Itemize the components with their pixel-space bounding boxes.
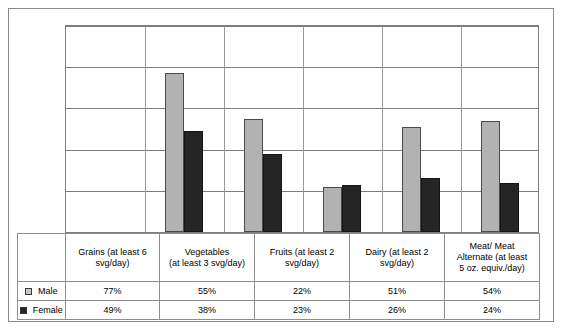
bar-group-meat bbox=[461, 26, 540, 232]
value-male-fruits: 22% bbox=[255, 282, 350, 301]
bar-group-dairy bbox=[382, 26, 461, 232]
category-line: Vegetables bbox=[185, 247, 230, 257]
light-square-icon bbox=[25, 288, 32, 295]
value-female-fruits: 23% bbox=[255, 301, 350, 320]
legend-label-male: Male bbox=[38, 286, 58, 296]
category-line: (at least 3 svg/day) bbox=[169, 258, 245, 268]
value-female-meat: 24% bbox=[445, 301, 540, 320]
bar-male-vegetables[interactable] bbox=[244, 119, 263, 232]
value-female-grains: 49% bbox=[66, 301, 160, 320]
bar-male-dairy[interactable] bbox=[402, 127, 421, 232]
category-line: svg/day) bbox=[380, 258, 414, 268]
category-line: Meat/ Meat bbox=[469, 241, 514, 251]
value-male-dairy: 51% bbox=[350, 282, 445, 301]
category-line: Fruits (at least 2 bbox=[270, 247, 335, 257]
bar-female-grains[interactable] bbox=[184, 131, 203, 232]
category-line: Alternate (at least bbox=[457, 252, 528, 262]
table-header-row: Grains (at least 6 svg/day) Vegetables (… bbox=[18, 234, 540, 282]
category-header-grains: Grains (at least 6 svg/day) bbox=[66, 234, 160, 282]
category-line: svg/day) bbox=[95, 258, 129, 268]
bar-female-meat[interactable] bbox=[500, 183, 519, 232]
category-line: svg/day) bbox=[285, 258, 319, 268]
legend-item-female[interactable]: Female bbox=[18, 301, 66, 320]
category-header-fruits: Fruits (at least 2 svg/day) bbox=[255, 234, 350, 282]
bar-group-grains bbox=[145, 26, 224, 232]
legend-spacer-cell bbox=[18, 234, 66, 282]
bar-female-vegetables[interactable] bbox=[263, 154, 282, 232]
dark-square-icon bbox=[20, 307, 27, 314]
value-male-grains: 77% bbox=[66, 282, 160, 301]
bar-male-fruits[interactable] bbox=[323, 187, 342, 232]
bar-female-fruits[interactable] bbox=[342, 185, 361, 232]
legend-label-female: Female bbox=[33, 305, 63, 315]
value-male-vegetables: 55% bbox=[160, 282, 255, 301]
bar-group-vegetables bbox=[224, 26, 303, 232]
category-line: Dairy (at least 2 bbox=[365, 247, 428, 257]
value-male-meat: 54% bbox=[445, 282, 540, 301]
value-female-dairy: 26% bbox=[350, 301, 445, 320]
table-row: Male 77% 55% 22% 51% 54% bbox=[18, 282, 540, 301]
category-line: Grains (at least 6 bbox=[78, 247, 147, 257]
data-table: Grains (at least 6 svg/day) Vegetables (… bbox=[17, 233, 540, 320]
plot-area bbox=[65, 25, 539, 233]
bar-male-grains[interactable] bbox=[165, 73, 184, 232]
category-header-meat: Meat/ Meat Alternate (at least 5 oz. equ… bbox=[445, 234, 540, 282]
value-female-vegetables: 38% bbox=[160, 301, 255, 320]
legend-item-male[interactable]: Male bbox=[18, 282, 66, 301]
category-header-vegetables: Vegetables (at least 3 svg/day) bbox=[160, 234, 255, 282]
category-header-dairy: Dairy (at least 2 svg/day) bbox=[350, 234, 445, 282]
table-row: Female 49% 38% 23% 26% 24% bbox=[18, 301, 540, 320]
bar-female-dairy[interactable] bbox=[421, 178, 440, 232]
chart-figure: Grains (at least 6 svg/day) Vegetables (… bbox=[8, 8, 554, 322]
bar-male-meat[interactable] bbox=[481, 121, 500, 232]
category-line: 5 oz. equiv./day) bbox=[459, 263, 524, 273]
bar-group-fruits bbox=[303, 26, 382, 232]
